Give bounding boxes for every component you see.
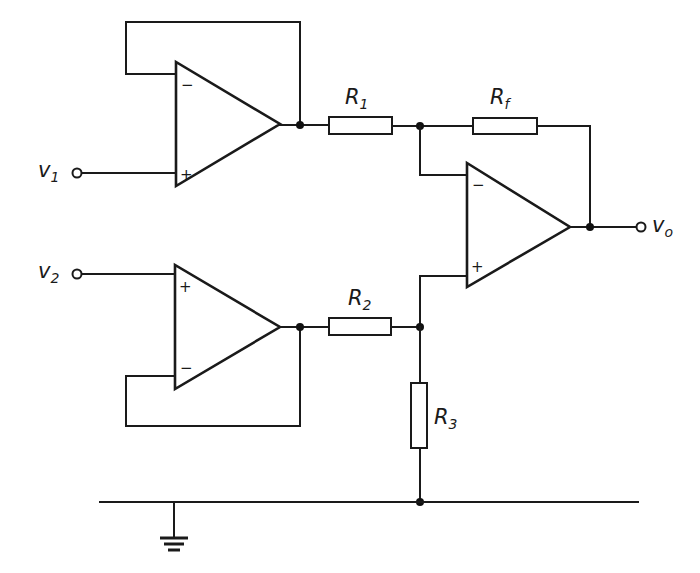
opamp-2: + − (126, 265, 300, 426)
resistor-r3 (411, 383, 427, 448)
opamp-1-minus: − (181, 76, 194, 94)
output-terminal-vo (637, 223, 646, 232)
resistor-r1 (329, 117, 392, 134)
opamp-3-plus: + (471, 258, 484, 276)
resistor-r2 (329, 318, 391, 335)
opamp-1: − + (126, 22, 300, 186)
opamp-1-plus: + (180, 166, 193, 184)
input-terminal-v2 (73, 270, 82, 279)
junction-output (586, 223, 594, 231)
label-r2: R2 (348, 286, 372, 313)
opamp-3-minus: − (472, 176, 485, 194)
label-vo: vo (652, 213, 673, 240)
junction-a1-out (296, 121, 304, 129)
opamp-2-minus: − (180, 359, 193, 377)
label-v1: v1 (38, 158, 59, 185)
label-v2: v2 (38, 259, 59, 286)
input-terminal-v1 (73, 169, 82, 178)
label-r3: R3 (434, 405, 458, 432)
label-rf: Rf (490, 85, 512, 112)
opamp-3: − + (467, 163, 570, 287)
circuit-diagram: − + v1 R1 Rf − + vo + − v2 R2 R3 (0, 0, 700, 573)
ground-icon (160, 502, 188, 550)
label-r1: R1 (345, 85, 369, 112)
opamp-2-plus: + (179, 278, 192, 296)
junction-a2-out (296, 323, 304, 331)
resistor-rf (473, 118, 537, 134)
